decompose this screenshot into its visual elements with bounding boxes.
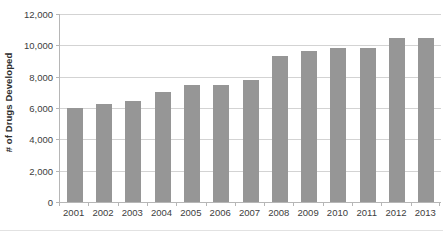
x-axis-tick-mark: [88, 202, 89, 206]
x-axis-tick-label: 2007: [239, 207, 260, 218]
y-axis-tick-label: 12,000: [24, 9, 53, 20]
x-axis-tick-label: 2003: [122, 207, 143, 218]
y-axis-tick-label: 8,000: [29, 71, 53, 82]
x-axis-tick-mark: [352, 202, 353, 206]
x-axis-tick-mark: [264, 202, 265, 206]
x-axis-tick-label: 2002: [92, 207, 113, 218]
x-axis-tick-mark: [293, 202, 294, 206]
y-axis-title: # of Drugs Developed: [0, 0, 18, 205]
bar: [125, 101, 141, 202]
x-axis-tick-label: 2010: [327, 207, 348, 218]
y-axis-tick-label: 2,000: [29, 165, 53, 176]
y-axis-tick-label: 10,000: [24, 40, 53, 51]
y-axis-tick-label: 4,000: [29, 134, 53, 145]
bar: [67, 108, 83, 202]
bar: [389, 38, 405, 203]
bar: [184, 85, 200, 202]
bar-chart: # of Drugs Developed 02,0004,0006,0008,0…: [0, 0, 443, 232]
x-axis-tick-label: 2004: [151, 207, 172, 218]
x-axis-tick-label: 2008: [268, 207, 289, 218]
x-axis-tick-mark: [206, 202, 207, 206]
x-axis-tick-mark: [411, 202, 412, 206]
x-axis-tick-label: 2001: [63, 207, 84, 218]
x-axis-tick-label: 2011: [357, 207, 377, 218]
bar: [330, 48, 346, 202]
x-axis-tick-label: 2006: [210, 207, 231, 218]
y-axis-tick-label: 6,000: [29, 103, 53, 114]
x-axis-tick-label: 2012: [385, 207, 406, 218]
x-axis-tick-label: 2013: [415, 207, 436, 218]
x-axis-tick-mark: [59, 202, 60, 206]
x-axis-tick-mark: [147, 202, 148, 206]
bar: [213, 85, 229, 202]
bar: [272, 56, 288, 202]
x-axis-tick-mark: [176, 202, 177, 206]
x-axis-tick-label: 2005: [180, 207, 201, 218]
x-axis-tick-mark: [323, 202, 324, 206]
bar: [96, 104, 112, 202]
x-axis-tick-mark: [439, 202, 440, 206]
chart-bottom-border: [0, 230, 443, 231]
x-axis-tick-mark: [381, 202, 382, 206]
bar: [243, 80, 259, 202]
y-axis-tick-labels: 02,0004,0006,0008,00010,00012,000: [18, 14, 56, 202]
y-axis-tick-label: 0: [48, 197, 53, 208]
bar: [155, 92, 171, 202]
bars-layer: [60, 14, 441, 202]
x-axis-tick-labels: 2001200220032004200520062007200820092010…: [59, 207, 440, 223]
bar: [360, 48, 376, 202]
x-axis-tick-mark: [118, 202, 119, 206]
x-axis-tick-mark: [235, 202, 236, 206]
plot-area: [59, 14, 440, 202]
bar: [301, 51, 317, 202]
bar: [418, 38, 434, 203]
x-axis-tick-label: 2009: [298, 207, 319, 218]
y-axis-title-text: # of Drugs Developed: [4, 53, 15, 153]
